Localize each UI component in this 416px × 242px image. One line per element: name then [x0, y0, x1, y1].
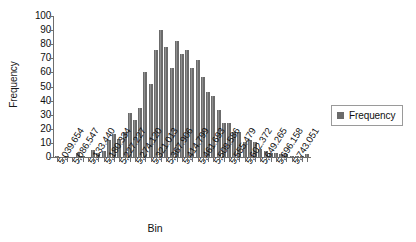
y-axis-tick — [49, 101, 53, 102]
x-axis-tick — [140, 158, 141, 162]
y-axis-tick — [49, 44, 53, 45]
x-axis-tick — [192, 158, 193, 162]
y-axis-tick — [49, 30, 53, 31]
y-axis-tick-label: 100 — [19, 11, 51, 21]
x-axis-tick — [62, 158, 63, 162]
y-axis-tick — [49, 129, 53, 130]
y-axis-tick-label: 10 — [19, 138, 51, 148]
x-axis-tick — [219, 158, 220, 162]
x-axis-tick — [156, 158, 157, 162]
histogram-chart: Frequency 0102030405060708090100 5,039.6… — [0, 0, 416, 242]
x-axis-tick — [161, 158, 162, 162]
y-axis-tick — [49, 72, 53, 73]
x-axis-title-text: Bin — [147, 222, 162, 234]
x-axis-tick — [119, 158, 120, 162]
x-axis-tick — [130, 158, 131, 162]
x-axis-tick — [72, 158, 73, 162]
x-axis-tick — [302, 158, 303, 162]
x-axis-tick — [229, 158, 230, 162]
legend-label-frequency: Frequency — [349, 110, 395, 121]
y-axis-tick-label: 30 — [19, 110, 51, 120]
legend-swatch-frequency — [337, 112, 344, 119]
x-axis-tick-labels: 5,039.6545,086.5475,133.4405,180.3345,22… — [0, 160, 416, 220]
y-axis-tick-label: 50 — [19, 82, 51, 92]
x-axis-tick — [286, 158, 287, 162]
x-axis-tick — [187, 158, 188, 162]
y-axis-tick — [49, 143, 53, 144]
y-axis-tick-label: 20 — [19, 124, 51, 134]
x-axis-tick — [271, 158, 272, 162]
x-axis-tick — [266, 158, 267, 162]
x-axis-tick — [83, 158, 84, 162]
x-axis-tick — [260, 158, 261, 162]
x-axis-tick — [224, 158, 225, 162]
x-axis-tick — [93, 158, 94, 162]
x-axis-tick — [239, 158, 240, 162]
x-axis-tick — [125, 158, 126, 162]
x-axis-tick — [245, 158, 246, 162]
y-axis-tick — [49, 16, 53, 17]
x-axis-title: Bin — [0, 222, 310, 234]
x-axis-tick — [213, 158, 214, 162]
x-axis-tick — [172, 158, 173, 162]
x-axis-tick — [145, 158, 146, 162]
x-axis-tick — [88, 158, 89, 162]
x-axis-tick — [177, 158, 178, 162]
x-axis-tick — [67, 158, 68, 162]
x-axis-tick — [151, 158, 152, 162]
x-axis-tick — [250, 158, 251, 162]
x-axis-tick — [292, 158, 293, 162]
x-axis-tick — [255, 158, 256, 162]
x-axis-tick — [114, 158, 115, 162]
y-axis-tick-label: 40 — [19, 96, 51, 106]
y-axis-tick-label: 90 — [19, 25, 51, 35]
x-axis-tick — [297, 158, 298, 162]
x-axis-tick — [57, 158, 58, 162]
y-axis-tick-label: 80 — [19, 39, 51, 49]
x-axis-tick — [78, 158, 79, 162]
y-axis-tick — [49, 115, 53, 116]
x-axis-tick — [109, 158, 110, 162]
x-axis-tick — [276, 158, 277, 162]
legend: Frequency — [331, 105, 403, 126]
y-axis-tick — [49, 157, 53, 158]
y-axis-tick — [49, 87, 53, 88]
x-axis-tick — [208, 158, 209, 162]
x-axis-tick — [198, 158, 199, 162]
y-axis-title-text: Frequency — [8, 61, 19, 107]
x-axis-tick — [166, 158, 167, 162]
y-axis-tick-label: 70 — [19, 53, 51, 63]
x-axis-tick — [203, 158, 204, 162]
x-axis-tick — [104, 158, 105, 162]
y-axis-tick — [49, 58, 53, 59]
x-axis-tick — [307, 158, 308, 162]
y-axis-tick-labels: 0102030405060708090100 — [19, 11, 51, 163]
y-axis-tick-label: 60 — [19, 67, 51, 77]
x-axis-tick — [182, 158, 183, 162]
x-axis-tick — [234, 158, 235, 162]
x-axis-tick — [281, 158, 282, 162]
x-axis-tick — [135, 158, 136, 162]
y-axis-title: Frequency — [6, 34, 20, 134]
x-axis-tick — [98, 158, 99, 162]
